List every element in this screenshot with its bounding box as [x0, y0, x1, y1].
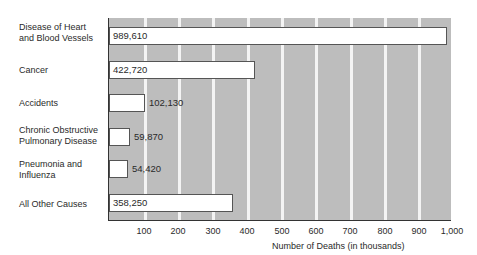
bar-value-other: 358,250	[113, 194, 147, 212]
x-tick: 200	[170, 226, 185, 236]
plot-area: 989,610 422,720 102,130 59,870 54,420 35…	[108, 18, 451, 221]
x-tick: 500	[274, 226, 289, 236]
x-tick: 800	[377, 226, 392, 236]
x-tick: 400	[239, 226, 254, 236]
x-tick: 100	[136, 226, 151, 236]
x-axis-label: Number of Deaths (in thousands)	[272, 241, 405, 251]
bar-value-cancer: 422,720	[113, 61, 147, 79]
gridline	[247, 18, 250, 220]
gridline	[315, 18, 318, 220]
bar-value-copd: 59,870	[134, 128, 163, 146]
category-label-pneumonia: Pneumonia and Influenza	[19, 159, 82, 181]
gridline	[384, 18, 387, 220]
bar-value-accidents: 102,130	[149, 94, 183, 112]
category-label-heart: Disease of Heart and Blood Vessels	[19, 22, 93, 44]
gridline	[144, 18, 147, 220]
bar-value-pneumonia: 54,420	[132, 160, 161, 178]
bar-value-heart: 989,610	[113, 27, 147, 45]
bar-copd	[109, 128, 130, 146]
gridline	[350, 18, 353, 220]
bar-accidents	[109, 94, 145, 112]
gridline	[418, 18, 421, 220]
bar-heart	[109, 27, 447, 45]
gridline	[178, 18, 181, 220]
x-tick: 700	[342, 226, 357, 236]
category-label-accidents: Accidents	[19, 98, 58, 109]
x-tick: 900	[411, 226, 426, 236]
gridline	[281, 18, 284, 220]
gridline	[212, 18, 215, 220]
category-label-copd: Chronic Obstructive Pulmonary Disease	[19, 125, 98, 147]
bar-pneumonia	[109, 160, 128, 178]
x-tick: 600	[308, 226, 323, 236]
x-tick: 300	[205, 226, 220, 236]
category-label-other: All Other Causes	[19, 199, 87, 210]
x-tick: 1,000	[441, 226, 464, 236]
category-label-cancer: Cancer	[19, 65, 48, 76]
